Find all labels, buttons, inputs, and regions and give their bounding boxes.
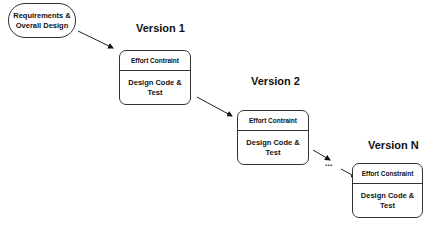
version-n-activity-line1: Design Code & <box>361 191 414 201</box>
version-2-activity-line2: Test <box>246 148 299 158</box>
version-1-activity: Design Code & Test <box>120 71 190 105</box>
version-2-activity: Design Code & Test <box>238 131 308 165</box>
version-n-activity-line2: Test <box>361 201 414 211</box>
start-label-line1: Requirements & <box>13 11 71 20</box>
arrow-start-to-v1 <box>78 31 113 48</box>
version-n-constraint: Effort Constraint <box>353 164 422 184</box>
version-1-constraint: Effort Contraint <box>120 51 190 71</box>
version-2-title: Version 2 <box>251 75 300 87</box>
arrow-v1-to-v2 <box>197 97 232 116</box>
version-2-box: Effort Contraint Design Code & Test <box>237 110 309 165</box>
version-n-box: Effort Constraint Design Code & Test <box>352 163 423 218</box>
version-1-title: Version 1 <box>136 22 185 34</box>
start-label-line2: Overall Design <box>13 21 71 30</box>
version-1-activity-line1: Design Code & <box>128 78 181 88</box>
version-1-box: Effort Contraint Design Code & Test <box>119 50 191 105</box>
ellipsis: ... <box>325 158 333 168</box>
version-1-activity-line2: Test <box>128 88 181 98</box>
version-2-activity-line1: Design Code & <box>246 138 299 148</box>
version-n-title: Version N <box>368 139 419 151</box>
version-n-activity: Design Code & Test <box>353 184 422 218</box>
version-2-constraint: Effort Contraint <box>238 111 308 131</box>
requirements-overall-design-node: Requirements & Overall Design <box>8 3 76 38</box>
